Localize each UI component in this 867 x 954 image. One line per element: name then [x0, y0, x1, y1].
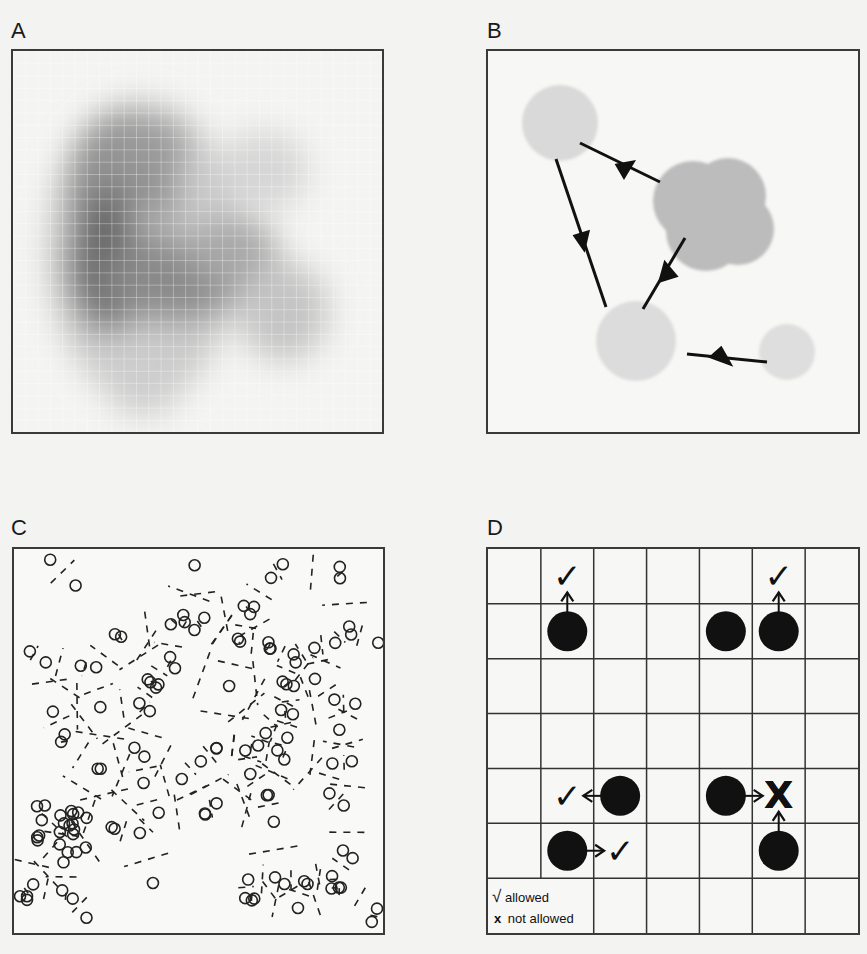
- check-icon: ✓: [606, 831, 635, 871]
- legend-not-allowed-label: not allowed: [508, 911, 574, 926]
- panel-d-lattice-rules: ✓✓✓✓XX √ allowed x not allowed: [486, 547, 860, 935]
- panel-a-density-grid: [11, 49, 384, 434]
- panel-label-c: C: [11, 515, 27, 541]
- panel-label-d: D: [487, 515, 503, 541]
- legend-not-allowed: x not allowed: [492, 908, 574, 929]
- panel-b-cell-migration: [486, 49, 860, 434]
- cell-bottom-right: [759, 324, 815, 380]
- cross-icon: X: [764, 773, 793, 817]
- panel-label-a: A: [11, 18, 26, 44]
- check-icon: ✓: [553, 776, 582, 816]
- agent: [706, 611, 746, 651]
- panel-label-b: B: [487, 18, 502, 44]
- agent: [759, 831, 799, 871]
- check-icon: ✓: [764, 556, 793, 596]
- agent: [706, 776, 746, 816]
- cell-top-left: [522, 85, 598, 161]
- agent: [759, 611, 799, 651]
- cross-icon: x: [492, 911, 504, 926]
- panel-c-voronoi-particles: [12, 547, 385, 935]
- legend-allowed-label: allowed: [505, 890, 549, 905]
- legend: √ allowed x not allowed: [492, 886, 574, 929]
- voronoi-particle-plot: [14, 549, 383, 933]
- check-icon: ✓: [553, 556, 582, 596]
- agent: [547, 611, 587, 651]
- legend-allowed: √ allowed: [492, 886, 574, 908]
- density-grid-plot: [13, 51, 382, 432]
- agent: [600, 776, 640, 816]
- lattice-grid: ✓✓✓✓XX: [488, 549, 858, 933]
- cell-bottom-center: [596, 301, 676, 381]
- cell-migration-diagram: [488, 51, 858, 432]
- check-icon: √: [492, 887, 501, 906]
- agent: [547, 831, 587, 871]
